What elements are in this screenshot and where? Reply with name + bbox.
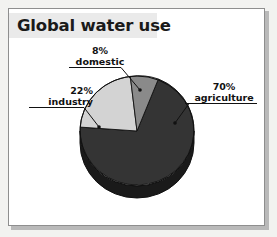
label-industry-name: industry (27, 96, 93, 107)
label-domestic-name: domestic (67, 56, 133, 67)
label-industry-percent: 22% (27, 85, 93, 96)
pie-chart-graphic (9, 9, 265, 226)
screenshot-root: Global water use (0, 0, 277, 237)
label-domestic-percent: 8% (67, 45, 133, 56)
label-domestic: 8% domestic (67, 45, 133, 67)
label-agriculture: 70% agriculture (185, 81, 263, 103)
label-industry: 22% industry (27, 85, 93, 107)
chart-card: Global water use (8, 8, 265, 226)
label-agriculture-name: agriculture (185, 92, 263, 103)
label-agriculture-percent: 70% (185, 81, 263, 92)
